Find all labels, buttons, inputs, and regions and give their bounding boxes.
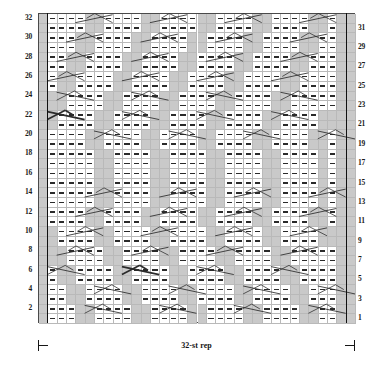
chart-cell: [281, 140, 290, 150]
chart-cell: [272, 72, 281, 82]
chart-cell: [160, 208, 169, 218]
chart-cell: [170, 43, 179, 53]
chart-cell: [95, 247, 104, 257]
purl-dash-icon: [97, 95, 102, 97]
purl-dash-icon: [180, 173, 185, 175]
purl-dash-icon: [330, 221, 335, 223]
chart-cell: [244, 305, 253, 315]
chart-cell: [291, 121, 300, 131]
purl-dash-icon: [190, 202, 195, 204]
chart-cell: [160, 188, 169, 198]
chart-cell: [48, 256, 57, 266]
purl-dash-icon: [208, 250, 213, 252]
chart-cell: [216, 256, 225, 266]
purl-dash-icon: [87, 231, 92, 233]
purl-dash-icon: [330, 250, 335, 252]
chart-cell: [272, 43, 281, 53]
chart-cell: [291, 247, 300, 257]
chart-cell: [170, 295, 179, 305]
purl-dash-icon: [330, 202, 335, 204]
purl-dash-icon: [87, 85, 92, 87]
chart-cell: [300, 14, 309, 24]
purl-dash-icon: [320, 318, 325, 320]
purl-dash-icon: [97, 308, 102, 310]
purl-dash-icon: [264, 47, 269, 49]
chart-cell: [160, 130, 169, 140]
purl-dash-icon: [78, 202, 83, 204]
purl-dash-icon: [171, 18, 176, 20]
purl-dash-icon: [50, 182, 55, 184]
chart-cell: [319, 14, 328, 24]
purl-dash-icon: [302, 260, 307, 262]
chart-cell: [225, 140, 234, 150]
chart-cell: [67, 24, 76, 34]
chart-cell: [263, 217, 272, 227]
purl-dash-icon: [97, 289, 102, 291]
purl-dash-icon: [320, 269, 325, 271]
chart-cell: [328, 188, 337, 198]
purl-dash-icon: [171, 182, 176, 184]
chart-cell: [319, 305, 328, 315]
chart-cell: [263, 82, 272, 92]
purl-dash-icon: [292, 221, 297, 223]
chart-cell: [142, 237, 151, 247]
purl-dash-icon: [143, 202, 148, 204]
purl-dash-icon: [162, 298, 167, 300]
chart-cell: [253, 217, 262, 227]
purl-dash-icon: [320, 37, 325, 39]
chart-cell: [244, 53, 253, 63]
chart-cell: [347, 53, 356, 63]
chart-cell: [179, 82, 188, 92]
purl-dash-icon: [302, 221, 307, 223]
chart-cell: [207, 266, 216, 276]
purl-dash-icon: [255, 95, 260, 97]
chart-cell: [347, 198, 356, 208]
row-number-6: 6: [28, 266, 32, 274]
chart-cell: [104, 314, 113, 324]
purl-dash-icon: [283, 143, 288, 145]
chart-cell: [142, 14, 151, 24]
purl-dash-icon: [106, 289, 111, 291]
chart-cell: [235, 130, 244, 140]
chart-cell: [225, 14, 234, 24]
row-number-5: 5: [358, 275, 362, 283]
purl-dash-icon: [302, 279, 307, 281]
purl-dash-icon: [199, 163, 204, 165]
chart-cell: [95, 237, 104, 247]
purl-dash-icon: [171, 231, 176, 233]
chart-cell: [58, 179, 67, 189]
chart-cell: [170, 130, 179, 140]
chart-cell: [76, 208, 85, 218]
purl-dash-icon: [50, 18, 55, 20]
chart-cell: [58, 150, 67, 160]
chart-cell: [86, 198, 95, 208]
chart-cell: [123, 150, 132, 160]
chart-cell: [104, 208, 113, 218]
chart-cell: [104, 295, 113, 305]
chart-cell: [309, 140, 318, 150]
chart-cell: [244, 266, 253, 276]
chart-cell: [272, 111, 281, 121]
row-numbers-right: 312927252321191715131197531: [358, 0, 386, 365]
chart-cell: [216, 314, 225, 324]
chart-cell: [48, 82, 57, 92]
chart-cell: [170, 72, 179, 82]
purl-dash-icon: [143, 250, 148, 252]
purl-dash-icon: [69, 143, 74, 145]
chart-cell: [235, 111, 244, 121]
chart-cell: [188, 256, 197, 266]
chart-cell: [151, 266, 160, 276]
purl-dash-icon: [134, 250, 139, 252]
purl-dash-icon: [106, 37, 111, 39]
chart-cell: [281, 237, 290, 247]
chart-cell: [179, 208, 188, 218]
purl-dash-icon: [134, 153, 139, 155]
purl-dash-icon: [199, 153, 204, 155]
purl-dash-icon: [59, 27, 64, 29]
chart-cell: [67, 305, 76, 315]
chart-cell: [347, 111, 356, 121]
purl-dash-icon: [302, 95, 307, 97]
purl-dash-icon: [274, 47, 279, 49]
chart-cell: [142, 101, 151, 111]
purl-dash-icon: [302, 192, 307, 194]
